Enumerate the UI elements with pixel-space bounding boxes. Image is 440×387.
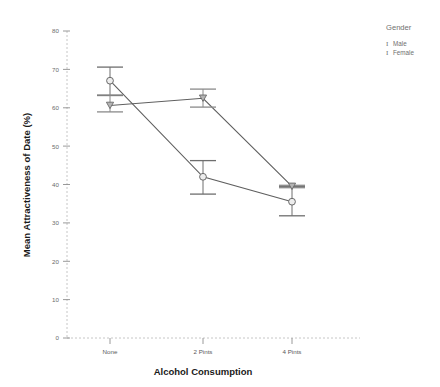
x-tick-label: 2 Pints xyxy=(194,348,213,355)
y-tick-label: 60 xyxy=(52,104,59,111)
legend-item-label: Female xyxy=(393,49,414,56)
y-axis-title: Mean Attractiveness of Date (%) xyxy=(21,113,32,257)
male-data-point-none xyxy=(107,77,114,84)
line-chart-svg: 0 10 20 30 40 50 60 70 80 xyxy=(0,0,440,387)
chart-container: 0 10 20 30 40 50 60 70 80 xyxy=(0,0,440,387)
y-tick-label: 30 xyxy=(52,219,59,226)
y-tick-label: 0 xyxy=(56,334,60,341)
legend-title: Gender xyxy=(386,23,412,32)
y-tick-label: 80 xyxy=(52,27,59,34)
x-tick-label: 4 Pints xyxy=(283,348,302,355)
y-tick-label: 20 xyxy=(52,258,59,265)
y-tick-label: 70 xyxy=(52,66,59,73)
y-tick-label: 50 xyxy=(52,143,59,150)
legend-item-label: Male xyxy=(393,40,407,47)
x-tick-label: None xyxy=(103,348,118,355)
y-tick-label: 40 xyxy=(52,181,59,188)
male-data-point-4pints xyxy=(289,198,296,205)
y-tick-label: 10 xyxy=(52,296,59,303)
x-axis-title: Alcohol Consumption xyxy=(154,366,253,377)
chart-background xyxy=(0,0,440,387)
male-data-point-2pints xyxy=(200,173,207,180)
